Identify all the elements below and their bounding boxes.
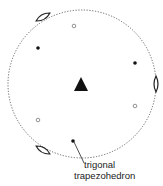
twofold-axis-icon: [35, 11, 51, 23]
label-line-2: trapezohedron: [74, 171, 135, 181]
open-pole-circle: [133, 104, 137, 108]
label-line-1: trigonal: [84, 160, 115, 170]
twofold-axis-icon: [154, 76, 158, 92]
twofold-axis-icon: [35, 144, 51, 156]
threefold-axis-triangle-icon: [74, 77, 88, 91]
filled-pole-dot: [36, 46, 40, 50]
label-leader-line: [74, 142, 84, 163]
filled-pole-dot: [133, 61, 137, 65]
stereographic-projection: [0, 0, 163, 186]
open-pole-circle: [36, 118, 40, 122]
open-pole-circle: [72, 24, 76, 28]
